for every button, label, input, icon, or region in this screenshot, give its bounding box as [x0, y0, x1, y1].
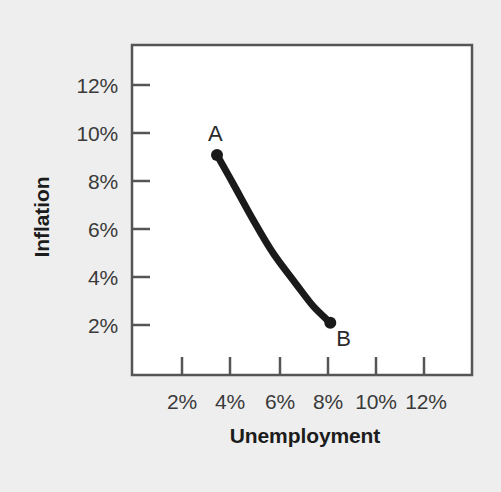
y-tick-label-4: 4%	[46, 266, 118, 290]
x-tick-label-12: 12%	[394, 390, 458, 414]
x-axis-title: Unemployment	[205, 424, 405, 448]
y-tick-label-8: 8%	[46, 170, 118, 194]
data-point-a-label: A	[208, 121, 223, 147]
y-tick-label-2: 2%	[46, 314, 118, 338]
data-point-a-marker	[211, 149, 223, 161]
y-tick-label-12: 12%	[46, 74, 118, 98]
y-tick-label-6: 6%	[46, 218, 118, 242]
data-point-b-label: B	[336, 326, 351, 352]
phillips-curve-figure: 12% 10% 8% 6% 4% 2% 2% 4% 6% 8% 10% 12% …	[0, 0, 501, 492]
plot-area-background	[132, 45, 472, 375]
y-tick-label-10: 10%	[46, 122, 118, 146]
data-point-b-marker	[324, 317, 336, 329]
y-axis-title: Inflation	[30, 162, 54, 272]
